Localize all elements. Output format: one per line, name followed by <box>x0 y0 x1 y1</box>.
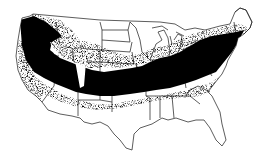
us-distribution-map <box>0 0 263 166</box>
map-svg <box>0 0 263 166</box>
